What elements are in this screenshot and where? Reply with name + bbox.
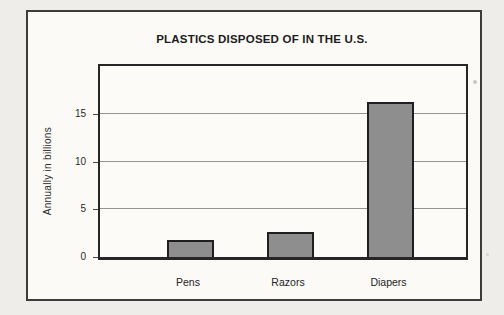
x-axis-labels: PensRazorsDiapers	[98, 275, 468, 289]
bar-diapers	[367, 102, 414, 257]
scan-speck	[486, 253, 489, 256]
chart-title: PLASTICS DISPOSED OF IN THE U.S.	[28, 33, 480, 45]
plot-area	[98, 64, 468, 260]
bar-pens	[167, 240, 214, 257]
bar-razors	[267, 232, 314, 257]
y-tick-label: 10	[75, 155, 86, 169]
scan-speck	[473, 80, 477, 84]
y-tick-label: 5	[80, 202, 86, 216]
x-category-label: Diapers	[370, 275, 406, 289]
scanned-chart-page: { "chart_data": { "type": "bar", "title"…	[0, 0, 504, 315]
x-category-label: Pens	[176, 275, 200, 289]
y-tick-label: 15	[75, 107, 86, 121]
chart-frame: PLASTICS DISPOSED OF IN THE U.S. Annuall…	[26, 10, 482, 301]
y-axis-ticks: 051015	[28, 64, 98, 260]
y-tick-label: 0	[80, 250, 86, 264]
x-category-label: Razors	[271, 275, 304, 289]
